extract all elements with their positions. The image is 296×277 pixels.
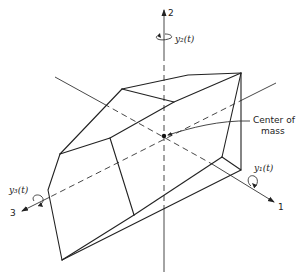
axis-1-label: 1 xyxy=(278,202,284,212)
axis-2-label: 2 xyxy=(168,8,174,18)
center-of-mass-label-line1: Center of xyxy=(253,115,296,125)
rigid-body-diagram: Center of mass 2 1 3 y₂(t) y₁(t) y₃(t) xyxy=(0,0,296,277)
polyhedron xyxy=(48,73,241,260)
rotation-icon-axis-1 xyxy=(248,176,257,188)
axis-3 xyxy=(22,83,276,211)
rotation-label-axis-1: y₁(t) xyxy=(253,163,274,173)
center-of-mass-dot xyxy=(162,134,166,138)
center-of-mass-label-line2: mass xyxy=(261,126,285,136)
axis-3-label: 3 xyxy=(10,208,16,218)
rotation-label-axis-3: y₃(t) xyxy=(8,185,29,195)
center-of-mass-leader xyxy=(168,121,250,135)
rotation-label-axis-2: y₂(t) xyxy=(174,34,195,44)
